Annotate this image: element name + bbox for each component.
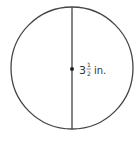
center-dot: [70, 67, 74, 71]
circle-diagram: 3 1 2 in.: [0, 0, 140, 145]
label-whole: 3: [79, 64, 86, 77]
label-unit: in.: [94, 65, 106, 76]
label-denominator: 2: [87, 70, 91, 77]
measurement-label: 3 1 2 in.: [79, 61, 106, 77]
label-numerator: 1: [87, 61, 91, 68]
